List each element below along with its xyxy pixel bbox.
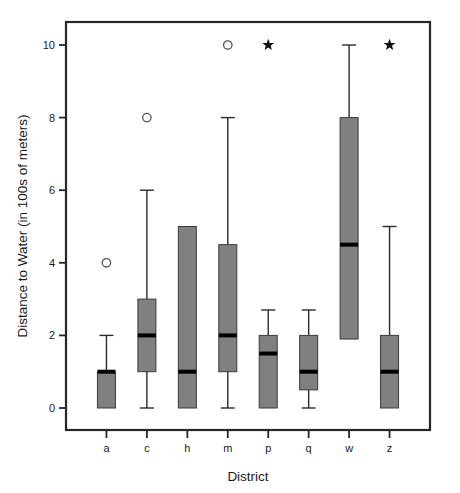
box-body bbox=[178, 227, 196, 409]
y-tick-label: 6 bbox=[49, 184, 55, 196]
boxplot-chart: 0246810 achmpqwz Distance to Water (in 1… bbox=[0, 0, 460, 493]
chart-canvas: 0246810 achmpqwz Distance to Water (in 1… bbox=[0, 0, 460, 493]
box-series-layer bbox=[97, 39, 398, 408]
outlier-circle-marker bbox=[143, 113, 151, 121]
box-q[interactable] bbox=[300, 310, 318, 408]
x-tick-label-c: c bbox=[144, 442, 150, 454]
y-axis-title: Distance to Water (in 100s of meters) bbox=[15, 114, 30, 337]
x-tick-label-h: h bbox=[184, 442, 190, 454]
box-m[interactable] bbox=[219, 41, 237, 408]
y-tick-label: 8 bbox=[49, 112, 55, 124]
box-body bbox=[259, 335, 277, 408]
plot-frame bbox=[66, 22, 430, 430]
box-body bbox=[219, 245, 237, 372]
box-body bbox=[300, 335, 318, 389]
box-z[interactable] bbox=[381, 39, 399, 408]
y-tick-label: 4 bbox=[49, 257, 55, 269]
y-axis-ticks: 0246810 bbox=[43, 39, 66, 414]
outlier-circle-marker bbox=[224, 41, 232, 49]
outlier-circle-marker bbox=[102, 259, 110, 267]
box-w[interactable] bbox=[340, 45, 358, 339]
box-h[interactable] bbox=[178, 227, 196, 409]
x-tick-label-p: p bbox=[265, 442, 271, 454]
extreme-star-marker bbox=[384, 39, 396, 50]
x-tick-label-a: a bbox=[103, 442, 110, 454]
x-tick-label-m: m bbox=[223, 442, 232, 454]
x-tick-label-z: z bbox=[387, 442, 393, 454]
box-p[interactable] bbox=[259, 39, 277, 408]
box-body bbox=[340, 118, 358, 339]
y-tick-label: 10 bbox=[43, 39, 55, 51]
box-a[interactable] bbox=[97, 259, 115, 408]
x-tick-label-q: q bbox=[306, 442, 312, 454]
y-tick-label: 2 bbox=[49, 329, 55, 341]
box-c[interactable] bbox=[138, 113, 156, 408]
x-axis-ticks: achmpqwz bbox=[103, 430, 392, 454]
extreme-star-marker bbox=[262, 39, 274, 50]
box-body bbox=[97, 372, 115, 408]
y-tick-label: 0 bbox=[49, 402, 55, 414]
x-axis-title: District bbox=[227, 469, 268, 484]
x-tick-label-w: w bbox=[344, 442, 353, 454]
